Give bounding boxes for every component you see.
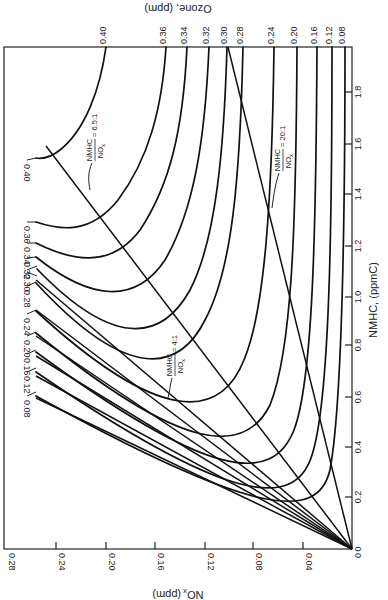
top-ozone-labels: 0.40 0.36 0.34 0.32 0.30 0.28 0.24 0.20 …: [98, 26, 347, 44]
nmhc-tick-1.0: 1.0: [353, 291, 363, 304]
nox-axis: 0.28 0.24 0.20 0.16 0.12 0.08 0.04 0 NOx…: [7, 542, 363, 600]
nmhc-axis-title: NMHC, (ppmC): [367, 262, 379, 338]
nox-tick-0.04: 0.04: [304, 553, 314, 571]
isopleth-0.28: [36, 47, 243, 359]
top-label-0.24: 0.24: [266, 26, 276, 44]
isopleth-0.34: [36, 47, 187, 258]
svg-text:NOx(ppm): NOx(ppm): [152, 587, 203, 600]
nmhc-tick-1.4: 1.4: [353, 188, 363, 201]
side-label-0.20: 0.20: [22, 340, 32, 358]
nox-tick-0.20: 0.20: [107, 553, 117, 571]
nmhc-tick-0.2: 0.2: [353, 491, 363, 504]
nox-axis-title: NOx(ppm): [152, 587, 203, 600]
side-label-0.30: 0.30: [22, 274, 32, 292]
top-label-0.20: 0.20: [289, 26, 299, 44]
side-label-0.24: 0.24: [22, 318, 32, 336]
top-label-0.12: 0.12: [324, 26, 334, 44]
svg-text:NMHC: NMHC: [273, 148, 282, 171]
svg-text:NMHC: NMHC: [85, 138, 94, 161]
side-label-0.12: 0.12: [22, 376, 32, 394]
nox-tick-0.16: 0.16: [156, 553, 166, 571]
annotation-ratio-6.5: NMHC NOx = 6.5:1: [85, 114, 106, 161]
svg-text:= 20:1: = 20:1: [278, 126, 287, 147]
side-label-0.08: 0.08: [22, 400, 32, 418]
svg-text:NOx: NOx: [176, 359, 186, 373]
ozone-isopleth-chart: Ozone, (ppm) 0.40 0.36 0.34 0.32 0.30 0.…: [0, 0, 388, 600]
isopleth-0.24: [36, 47, 274, 402]
ozone-axis-title: Ozone, (ppm): [144, 3, 211, 15]
isopleth-0.40: [36, 47, 106, 158]
isopleth-0.20: [36, 47, 297, 436]
side-label-0.16: 0.16: [22, 358, 32, 376]
side-label-0.36: 0.36: [22, 226, 32, 244]
side-label-0.28: 0.28: [22, 290, 32, 308]
isopleth-0.32: [36, 47, 209, 292]
top-label-0.28: 0.28: [235, 26, 245, 44]
nmhc-tick-1.8: 1.8: [353, 86, 363, 99]
top-label-0.40: 0.40: [98, 26, 108, 44]
nox-tick-0.08: 0.08: [254, 553, 264, 571]
svg-text:NMHC: NMHC: [165, 353, 174, 376]
top-label-0.30: 0.30: [219, 26, 229, 44]
nmhc-tick-1.6: 1.6: [353, 138, 363, 151]
nox-tick-0.28: 0.28: [7, 553, 17, 571]
annotation-ratio-4: NMHC NOx = 4:1: [165, 335, 186, 376]
nmhc-tick-0: 0: [353, 546, 363, 551]
nmhc-tick-0.6: 0.6: [353, 391, 363, 404]
nmhc-tick-0.8: 0.8: [353, 339, 363, 352]
nox-tick-0.12: 0.12: [206, 553, 216, 571]
top-label-0.16: 0.16: [309, 26, 319, 44]
ratio-line-4-to-1: [36, 280, 352, 549]
nmhc-tick-0.4: 0.4: [353, 441, 363, 454]
leader-ratio-6.5: [89, 163, 92, 190]
ratio-line-20-to-1: [228, 47, 352, 549]
isopleth-0.08: [36, 47, 345, 501]
svg-text:NOx: NOx: [96, 144, 106, 158]
svg-text:= 4:1: = 4:1: [170, 335, 179, 352]
nmhc-axis: 0 0.2 0.4 0.6 0.8 1.0 1.2 1.4 1.6 1.8 NM…: [345, 86, 379, 552]
top-label-0.34: 0.34: [179, 26, 189, 44]
side-label-0.40: 0.40: [22, 164, 32, 182]
side-ozone-labels: 0.40 0.36 0.34 0.32 0.30 0.28 0.24 0.20 …: [22, 158, 37, 418]
top-label-0.08: 0.08: [337, 26, 347, 44]
nmhc-tick-1.2: 1.2: [353, 240, 363, 253]
ratio-line-6.5-to-1: [46, 146, 352, 549]
isopleths: [36, 47, 345, 501]
nox-tick-0.24: 0.24: [57, 553, 67, 571]
top-label-0.32: 0.32: [201, 26, 211, 44]
isopleth-0.30: [37, 47, 227, 329]
nox-tick-0: 0: [353, 553, 363, 558]
annotation-ratio-20: NMHC NOx = 20:1: [273, 126, 294, 171]
leader-ratio-20: [272, 173, 279, 208]
svg-text:NOx: NOx: [284, 154, 294, 168]
svg-text:= 6.5:1: = 6.5:1: [90, 114, 99, 137]
top-label-0.36: 0.36: [158, 26, 168, 44]
